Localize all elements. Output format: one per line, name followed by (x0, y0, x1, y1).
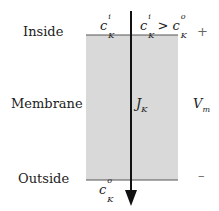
membrane-potential-label: Vm (193, 96, 210, 114)
minus-sign: – (198, 168, 205, 183)
flux-label: JK (136, 96, 147, 114)
outer-concentration-label: coK (99, 182, 112, 200)
flux-arrow-head-icon (125, 190, 137, 206)
inner-concentration-label: ciK (100, 18, 113, 36)
outside-label: Outside (18, 171, 69, 186)
membrane-label: Membrane (11, 96, 83, 111)
concentration-inequality: ciK > coK (140, 18, 186, 36)
plus-sign: + (197, 24, 208, 39)
inside-label: Inside (23, 24, 63, 39)
